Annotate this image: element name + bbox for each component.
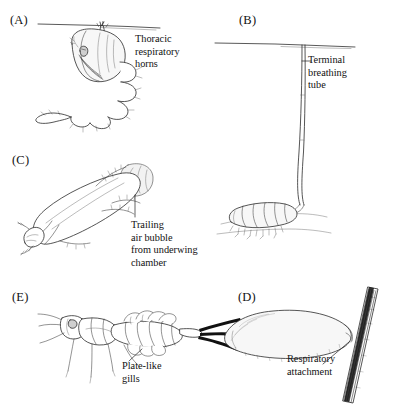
panel-b-leader — [301, 58, 315, 72]
panel-d-drawing — [205, 285, 393, 407]
plant-stem — [343, 287, 378, 403]
panel-d: (D) — [205, 285, 393, 407]
water-surface-line-b — [215, 43, 355, 49]
panel-e-callout: Plate-like gills — [122, 360, 192, 385]
rat-tailed-maggot-body — [229, 203, 297, 239]
panel-b: (B) — [205, 0, 393, 270]
panel-e-drawing — [0, 285, 205, 407]
panel-a: (A) — [0, 0, 205, 140]
panel-b-callout: Terminal breathing tube — [308, 54, 390, 92]
panel-c-callout: Trailing air bubble from underwing chamb… — [131, 219, 205, 269]
nymph-antennae — [38, 314, 62, 326]
plate-like-gills — [111, 311, 182, 356]
panel-b-label: (B) — [239, 13, 256, 28]
figure-plate: (A) — [0, 0, 393, 407]
pupa-cephalothorax — [70, 29, 125, 82]
panel-e-label: (E) — [12, 290, 29, 305]
panel-a-callout: Thoracic respiratory horns — [135, 33, 205, 71]
panel-c: (C) — [0, 145, 205, 285]
panel-d-label: (D) — [238, 290, 256, 305]
water-surface-line-a — [38, 24, 160, 30]
panel-d-callout: Respiratory attachment — [287, 353, 375, 378]
panel-e: (E) — [0, 285, 205, 407]
panel-c-label: (C) — [12, 153, 29, 168]
panel-b-drawing — [205, 0, 393, 270]
nymph-head-thorax — [60, 316, 117, 345]
panel-a-label: (A) — [10, 13, 28, 28]
